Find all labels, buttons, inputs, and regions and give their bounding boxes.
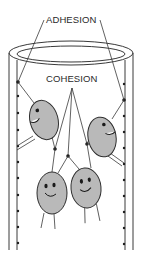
molecule-eye-icon — [44, 184, 47, 189]
molecule-leg — [96, 204, 99, 221]
molecule-leg — [84, 207, 86, 223]
molecule-eye-icon — [52, 183, 55, 188]
adhesion-label: ADHESION — [46, 14, 96, 25]
molecule-top-left — [25, 97, 62, 143]
cohesion-leader-lines — [55, 88, 87, 156]
cohesion-label: COHESION — [46, 73, 98, 84]
adhesion-cohesion-diagram: ADHESION COHESION — [0, 0, 145, 266]
cohesion-junction-dots — [53, 142, 89, 158]
molecule-bottom-left — [37, 172, 67, 229]
molecule-leg — [54, 214, 55, 229]
molecule-leg — [41, 213, 44, 228]
cohesion-bonds — [50, 129, 93, 173]
tube-rim-outer — [9, 41, 133, 65]
molecule-bottom-right — [69, 167, 104, 224]
molecule-top-right — [85, 115, 120, 159]
